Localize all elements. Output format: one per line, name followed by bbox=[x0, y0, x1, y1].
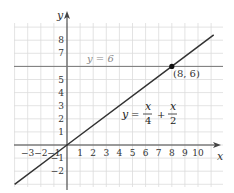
axes bbox=[14, 11, 221, 190]
eq-y: y bbox=[121, 108, 129, 121]
point-label: (8, 6) bbox=[173, 68, 200, 79]
x-tick-label: 2 bbox=[90, 148, 96, 158]
x-tick-label: 4 bbox=[117, 148, 123, 158]
y-tick-label: 2 bbox=[58, 114, 64, 124]
eq-frac2-num: x bbox=[170, 100, 177, 113]
x-tick-label: 9 bbox=[182, 148, 188, 158]
y-tick-label: 8 bbox=[58, 35, 64, 45]
eq-equals: = bbox=[131, 109, 139, 120]
y-tick-label: 1 bbox=[58, 127, 64, 137]
eq-frac1-den: 4 bbox=[145, 115, 151, 126]
hline-label: y = 6 bbox=[86, 53, 114, 64]
x-tick-label: 3 bbox=[103, 148, 109, 158]
x-tick-label: 6 bbox=[143, 148, 149, 158]
y-tick-label: −2 bbox=[51, 166, 64, 176]
y-tick-label: 5 bbox=[58, 75, 64, 85]
equation-label: y = x 4 + x 2 bbox=[121, 100, 177, 126]
line-y-equals-3x-over-4 bbox=[15, 35, 214, 184]
x-tick-label: −2 bbox=[34, 148, 47, 158]
x-tick-label: 10 bbox=[192, 148, 204, 158]
y-tick-label: 4 bbox=[58, 88, 64, 98]
y-axis-label: y bbox=[56, 9, 64, 22]
eq-plus: + bbox=[157, 109, 165, 120]
x-tick-label: 8 bbox=[169, 148, 175, 158]
y-tick-label: −1 bbox=[51, 153, 64, 163]
x-tick-label: 1 bbox=[77, 148, 83, 158]
series bbox=[14, 35, 223, 184]
grid bbox=[14, 23, 223, 187]
eq-frac2-den: 2 bbox=[170, 115, 176, 126]
eq-frac1-num: x bbox=[145, 100, 152, 113]
y-tick-label: 3 bbox=[58, 101, 64, 111]
x-axis-label: x bbox=[217, 150, 224, 163]
x-tick-label: 7 bbox=[156, 148, 162, 158]
chart: −3−2−112345678910−2−11234578 y x y = 6 (… bbox=[0, 0, 234, 193]
x-tick-label: −3 bbox=[21, 148, 35, 158]
x-tick-label: 5 bbox=[130, 148, 136, 158]
y-tick-label: 7 bbox=[58, 48, 64, 58]
